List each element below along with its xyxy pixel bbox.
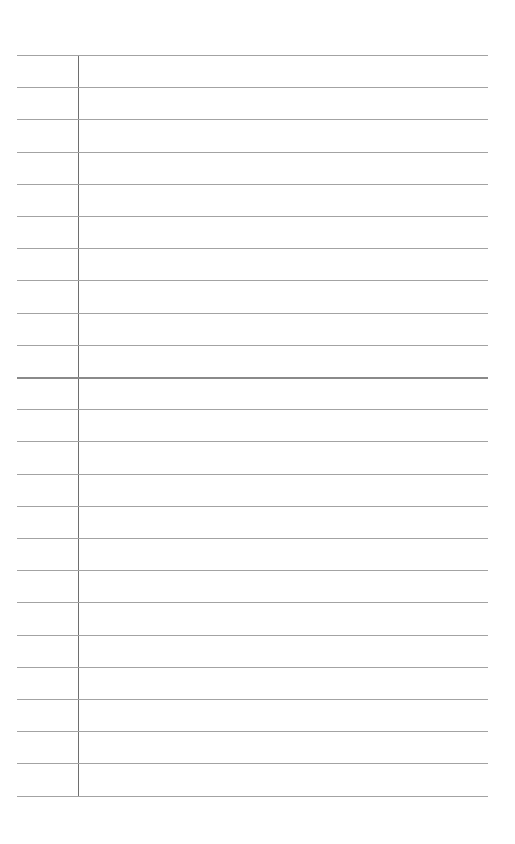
ruled-line [17,441,488,442]
ruled-line [17,409,488,410]
ruled-line [17,377,488,379]
ruled-line [17,248,488,249]
ruled-line [17,216,488,217]
lined-paper [0,0,515,844]
ruled-line [17,152,488,153]
ruled-line [17,119,488,120]
ruled-line [17,55,488,56]
ruled-line [17,602,488,603]
ruled-line [17,538,488,539]
ruled-line [17,474,488,475]
ruled-line [17,731,488,732]
ruled-line [17,635,488,636]
ruled-line [17,87,488,88]
ruled-line [17,667,488,668]
ruled-line [17,699,488,700]
margin-line [78,55,79,797]
ruled-line [17,184,488,185]
ruled-line [17,570,488,571]
ruled-line [17,345,488,346]
ruled-line [17,796,488,797]
ruled-line [17,763,488,764]
ruled-line [17,506,488,507]
ruled-line [17,313,488,314]
ruled-line [17,280,488,281]
